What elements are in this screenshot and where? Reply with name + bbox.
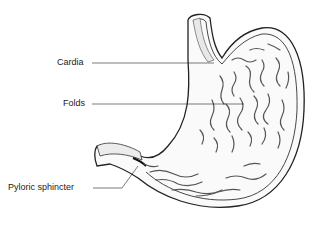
folds-label: Folds	[63, 98, 85, 108]
pyloric-sphincter-label: Pyloric sphincter	[8, 182, 74, 192]
cardia-label: Cardia	[57, 57, 84, 67]
